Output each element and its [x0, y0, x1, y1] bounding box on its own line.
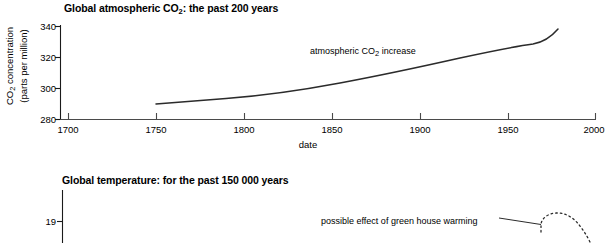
chart-panel-temperature: Global temperature: for the past 150 000…	[0, 160, 615, 243]
chart-panel-co2: Global atmospheric CO2: the past 200 yea…	[0, 0, 615, 160]
co2-plot-svg	[0, 0, 615, 160]
temperature-projected-dashed-curve	[541, 213, 590, 242]
co2-y-tick-marks	[55, 27, 61, 120]
temperature-plot-svg	[0, 160, 615, 243]
figure: Global atmospheric CO2: the past 200 yea…	[0, 0, 615, 243]
co2-data-line	[156, 29, 558, 104]
temperature-annotation-leader-line	[499, 218, 541, 225]
co2-x-tick-marks	[69, 113, 596, 120]
